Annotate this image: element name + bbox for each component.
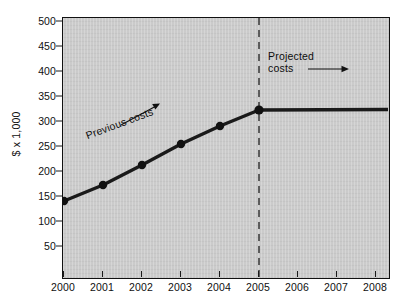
- x-tick-label: 2004: [197, 281, 241, 293]
- x-tick-mark: [336, 271, 337, 277]
- x-tick-mark: [141, 271, 142, 277]
- x-tick-label: 2000: [41, 281, 85, 293]
- x-tick-label: 2001: [80, 281, 124, 293]
- y-tick-label: 50: [26, 240, 56, 252]
- chart-figure: $ x 1,000 500 450 400 350 300 250 200 15…: [0, 0, 398, 305]
- plot-svg: [63, 18, 389, 278]
- y-axis-title: $ x 1,000: [10, 94, 22, 174]
- x-tick-label: 2003: [158, 281, 202, 293]
- x-tick-mark: [180, 271, 181, 277]
- y-tick-label: 500: [26, 15, 56, 27]
- x-tick-label: 2007: [314, 281, 358, 293]
- y-tick-label: 200: [26, 165, 56, 177]
- y-tick-label: 400: [26, 65, 56, 77]
- data-point-2002: [138, 161, 146, 169]
- y-tick-label: 300: [26, 115, 56, 127]
- x-tick-label: 2005: [236, 281, 280, 293]
- data-point-2005: [254, 105, 263, 114]
- data-point-2001: [99, 181, 107, 189]
- y-tick-label: 100: [26, 215, 56, 227]
- x-tick-mark: [258, 271, 259, 277]
- projected-costs-annotation: Projected costs: [268, 50, 314, 74]
- x-tick-label: 2002: [119, 281, 163, 293]
- x-tick-label: 2008: [353, 281, 397, 293]
- y-tick-label: 350: [26, 90, 56, 102]
- x-tick-mark: [102, 271, 103, 277]
- projected-costs-line: [259, 110, 388, 111]
- y-tick-label: 450: [26, 40, 56, 52]
- x-tick-mark: [219, 271, 220, 277]
- y-axis-tick-labels: 500 450 400 350 300 250 200 150 100 50: [22, 0, 56, 305]
- previous-costs-line: [64, 110, 259, 201]
- y-tick-label: 150: [26, 190, 56, 202]
- plot-area: [62, 17, 390, 279]
- x-axis-tick-labels: 2000 2001 2002 2003 2004 2005 2006 2007 …: [0, 281, 398, 301]
- x-tick-mark: [63, 271, 64, 277]
- data-point-2004: [216, 122, 224, 130]
- x-tick-label: 2006: [275, 281, 319, 293]
- y-tick-label: 250: [26, 140, 56, 152]
- data-point-2003: [177, 140, 185, 148]
- x-tick-mark: [297, 271, 298, 277]
- x-tick-mark: [375, 271, 376, 277]
